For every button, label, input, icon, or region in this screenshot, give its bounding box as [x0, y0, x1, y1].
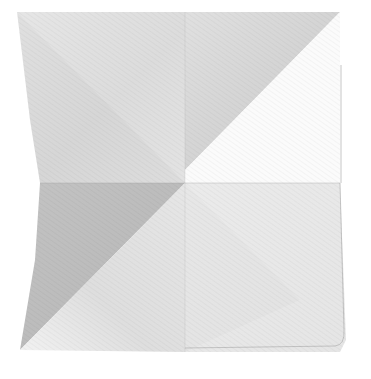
napkin-photo [0, 0, 371, 379]
fabric-weave-texture [17, 12, 346, 352]
